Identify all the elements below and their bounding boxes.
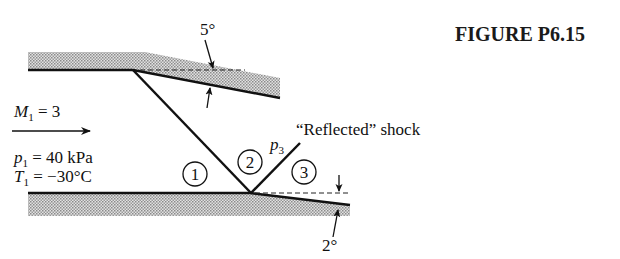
svg-text:2: 2 <box>246 153 255 172</box>
p3-label: p3 <box>269 135 285 156</box>
mach-number-label: M1 = 3 <box>13 102 60 123</box>
region-1-marker: 1 <box>183 162 207 186</box>
svg-text:1: 1 <box>191 165 200 184</box>
region-2-marker: 2 <box>238 150 262 174</box>
upper-angle-arrow-bottom <box>207 88 210 108</box>
pressure-label: p1 = 40 kPa <box>13 148 93 169</box>
diagram-canvas: 5° 2° M1 = 3 p1 = 40 kPa T1 = −30°C 1 2 … <box>0 0 620 259</box>
temperature-label: T1 = −30°C <box>14 167 92 188</box>
region-3-marker: 3 <box>292 160 316 184</box>
lower-angle-label: 2° <box>322 236 337 255</box>
figure-title: FIGURE P6.15 <box>455 23 585 45</box>
lower-wall-shading <box>28 193 350 216</box>
reflected-shock-label: “Reflected” shock <box>296 120 421 139</box>
svg-text:3: 3 <box>300 163 309 182</box>
upper-angle-label: 5° <box>200 20 215 39</box>
